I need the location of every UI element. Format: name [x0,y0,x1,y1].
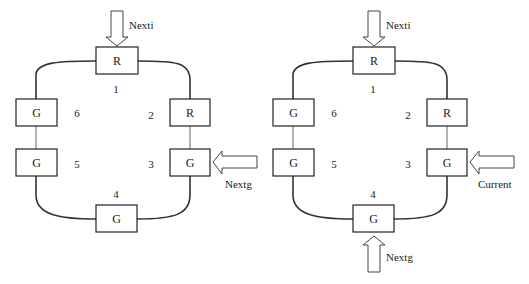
position-number-1: 1 [113,83,119,95]
wire-4-3 [137,176,190,219]
ring-diagrams: R G R G G G 1 2 3 4 5 6 Nexti [0,0,529,284]
node-3: G [170,149,210,176]
diagram-left: R G R G G G 1 2 3 4 5 6 Nexti [16,11,257,232]
position-number-2: 2 [405,109,411,121]
diagram-right: R G R G G G 1 2 3 4 5 6 Nexti [273,11,514,272]
node-5: G [273,149,314,176]
node-1: R [353,47,395,74]
node-4: G [96,205,137,232]
arrow-down-icon [106,11,128,46]
node-2: R [427,99,467,126]
node-state: R [186,106,194,120]
node-state: R [370,54,378,68]
wire-1-6 [36,61,96,99]
position-number-6: 6 [331,107,337,119]
arrow-label-nextg: Nextg [386,251,413,263]
arrow-left-icon [470,151,514,174]
position-number-6: 6 [74,107,80,119]
position-number-3: 3 [405,158,411,170]
node-4: G [353,205,394,232]
node-5: G [16,149,57,176]
node-state: G [112,212,121,226]
arrow-left-icon [213,151,257,174]
wire-1-2 [138,61,190,99]
arrow-down-icon [363,11,385,46]
node-3: G [427,149,467,176]
position-number-5: 5 [74,158,80,170]
wire-1-2 [395,61,447,99]
wire-5-4 [36,176,96,219]
node-state: G [289,106,298,120]
node-state: R [113,54,121,68]
wire-5-4 [293,176,353,219]
node-2: R [170,99,210,126]
wire-4-3 [394,176,447,219]
node-state: G [369,212,378,226]
node-state: G [186,156,195,170]
node-state: G [289,156,298,170]
arrow-label-nexti: Nexti [129,19,153,31]
node-state: G [32,156,41,170]
position-number-3: 3 [148,158,154,170]
node-1: R [96,47,138,74]
position-number-1: 1 [370,83,376,95]
node-state: R [443,106,451,120]
arrow-label-current: Current [478,178,512,190]
node-state: G [32,106,41,120]
position-number-2: 2 [148,109,154,121]
wire-1-6 [293,61,353,99]
node-6: G [16,99,57,126]
arrow-label-nextg: Nextg [225,178,252,190]
position-number-4: 4 [370,188,376,200]
position-number-4: 4 [113,188,119,200]
node-state: G [443,156,452,170]
arrow-label-nexti: Nexti [386,19,410,31]
node-6: G [273,99,314,126]
arrow-up-icon [363,236,385,272]
position-number-5: 5 [331,158,337,170]
